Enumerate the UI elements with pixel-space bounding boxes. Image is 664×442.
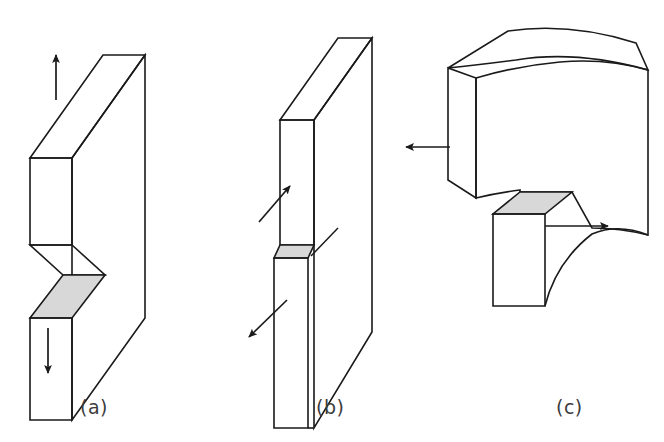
crack-a-shaded-face — [30, 275, 105, 318]
plate-b-top-face — [280, 38, 372, 120]
plate-b-front-upper — [280, 120, 314, 245]
crack-c-shaded-face — [493, 192, 572, 214]
caption-panel-b: (b) — [316, 396, 344, 418]
arrow-b-up-right — [259, 186, 290, 222]
plate-a-front-lower — [30, 318, 72, 420]
panel-b-mode-ii-sliding-shear — [249, 38, 372, 428]
crack-b-shaded-face — [274, 245, 314, 258]
plate-a-side-face — [72, 55, 145, 420]
plate-a-front-upper — [30, 158, 72, 245]
plate-c-left-face — [448, 68, 476, 198]
arrow-b-down-left — [249, 300, 287, 337]
tear-line-c — [545, 229, 648, 306]
plate-b-side-face — [314, 38, 372, 428]
caption-panel-c: (c) — [556, 396, 583, 418]
plate-b-front-lower — [274, 258, 308, 428]
caption-panel-a: (a) — [80, 396, 108, 418]
panel-c-mode-iii-tearing — [406, 28, 648, 306]
crack-a-upper-lip — [30, 245, 105, 275]
panel-a-mode-i-opening — [30, 55, 145, 420]
plate-a-top-face — [30, 55, 145, 158]
fracture-modes-illustration — [0, 0, 664, 442]
slip-indicator-b — [311, 228, 338, 256]
tab-c-front-face — [493, 214, 545, 306]
fracture-modes-figure: (a) (b) (c) — [0, 0, 664, 442]
